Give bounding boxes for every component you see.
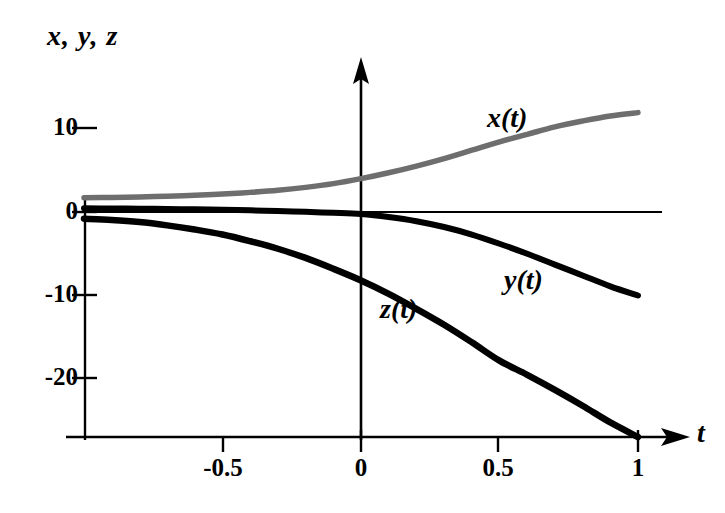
chart-figure: x, y, z t 10 0 -10 -20 -0.5 0 0.5 1 x(t)… — [0, 0, 725, 513]
curve-label-z: z(t) — [380, 295, 417, 323]
y-tick-label-0: 0 — [18, 198, 78, 223]
y-tick-label-10: 10 — [18, 114, 78, 139]
curve-label-y: y(t) — [504, 266, 543, 294]
x-tick-label-minus-05: -0.5 — [186, 455, 260, 480]
y-tick-label-minus-20: -20 — [4, 364, 78, 389]
x-tick-label-1: 1 — [626, 455, 650, 480]
curve-label-x: x(t) — [487, 104, 527, 132]
x-axis-title: t — [697, 419, 705, 447]
y-axis-title: x, y, z — [47, 22, 118, 50]
x-tick-label-05: 0.5 — [466, 455, 530, 480]
plot-canvas — [0, 0, 725, 513]
y-tick-label-minus-10: -10 — [4, 281, 78, 306]
x-tick-label-0: 0 — [348, 455, 374, 480]
